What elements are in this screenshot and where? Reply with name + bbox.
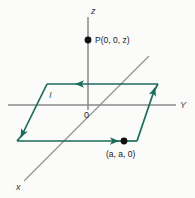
loop-edge-right-tail [154,84,158,91]
point-corner-dot [121,138,128,145]
current-label: I [49,89,52,100]
loop-edge-left [21,84,47,137]
origin-label: 0 [84,110,89,120]
point-p-label: P(0, 0, z) [95,35,130,45]
y-axis-label: Y [180,100,187,110]
point-p-dot [85,37,92,44]
loop-edge-left-tail [17,134,23,141]
x-axis-label: x [15,182,21,192]
point-corner-label: (a, a, 0) [106,149,135,159]
z-axis-label: z [90,6,96,16]
geometry-figure: z Y x 0 I P(0, 0, z) (a, a, 0) [0,0,195,198]
loop-edge-right [137,88,155,141]
figure-canvas: z Y x 0 I P(0, 0, z) (a, a, 0) [0,0,195,198]
